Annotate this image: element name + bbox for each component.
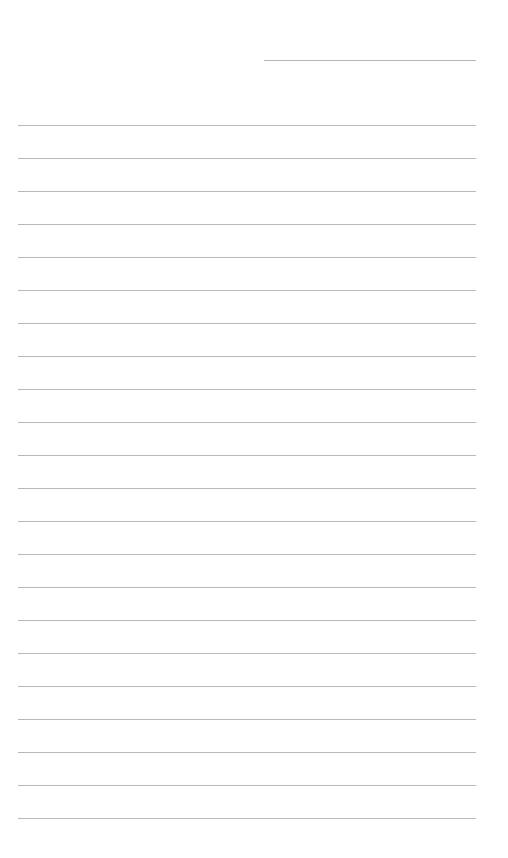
ruled-line — [18, 554, 476, 555]
ruled-line — [18, 422, 476, 423]
ruled-line — [18, 125, 476, 126]
ruled-line — [18, 521, 476, 522]
ruled-line — [18, 653, 476, 654]
ruled-line — [18, 257, 476, 258]
ruled-line — [18, 587, 476, 588]
ruled-line — [18, 389, 476, 390]
ruled-line — [18, 290, 476, 291]
ruled-line — [18, 323, 476, 324]
ruled-line — [18, 455, 476, 456]
ruled-line — [18, 752, 476, 753]
header-field-line — [264, 60, 476, 61]
ruled-line — [18, 785, 476, 786]
lined-page — [0, 0, 508, 858]
ruled-line — [18, 191, 476, 192]
ruled-line — [18, 686, 476, 687]
ruled-line — [18, 488, 476, 489]
ruled-line — [18, 224, 476, 225]
ruled-line — [18, 818, 476, 819]
ruled-line — [18, 719, 476, 720]
ruled-line — [18, 158, 476, 159]
ruled-line — [18, 620, 476, 621]
ruled-line — [18, 356, 476, 357]
